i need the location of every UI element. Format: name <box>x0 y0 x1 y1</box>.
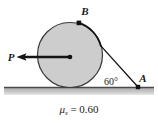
label-friction-coefficient: μs = 0.60 <box>58 103 99 117</box>
label-point-b: B <box>80 5 88 17</box>
label-angle-60deg: 60° <box>104 76 118 87</box>
figure-canvas: B A P 60° μs = 0.60 <box>0 0 158 123</box>
ground-hatch-band <box>4 88 154 95</box>
statics-figure: B A P 60° μs = 0.60 <box>0 0 158 123</box>
point-b-marker <box>77 21 82 26</box>
force-application-point <box>68 55 73 60</box>
label-point-a: A <box>138 72 146 84</box>
label-force-p: P <box>8 51 15 63</box>
mu-value: 0.60 <box>79 103 99 115</box>
mu-equals-sign: = <box>68 103 80 115</box>
point-a-marker <box>136 85 140 89</box>
